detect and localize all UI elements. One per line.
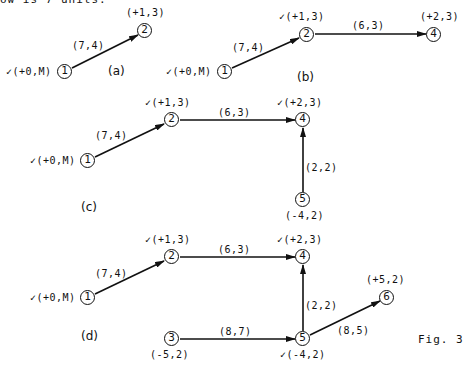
node-b-2-label: ✓(+1,3) bbox=[279, 11, 325, 22]
node-d-4-label: ✓(+2,3) bbox=[277, 234, 323, 245]
node-c-1-label: ✓(+0,M) bbox=[30, 155, 76, 166]
node-c-5-label: (-4,2) bbox=[285, 210, 324, 221]
edge-c-2-4-label: (6,3) bbox=[218, 107, 251, 118]
figure-caption: Fig. 3 bbox=[418, 333, 464, 346]
edge-b-1-2-label: (7,4) bbox=[232, 42, 265, 53]
node-d-5-label: ✓(-4,2) bbox=[280, 349, 326, 360]
node-b-2: 2 bbox=[299, 27, 314, 42]
panel-c-label: (c) bbox=[81, 200, 97, 214]
node-c-4-label: ✓(+2,3) bbox=[277, 97, 323, 108]
node-b-1-label: ✓(+0,M) bbox=[166, 66, 212, 77]
node-a-1-label: ✓(+0,M) bbox=[6, 66, 52, 77]
panel-a-label: (a) bbox=[108, 64, 125, 78]
node-d-3-label: (-5,2) bbox=[150, 349, 189, 360]
edge-d-1-2-label: (7,4) bbox=[95, 268, 128, 279]
node-d-4: 4 bbox=[295, 249, 310, 264]
panel-b-label: (b) bbox=[297, 70, 314, 84]
node-b-4: 4 bbox=[426, 27, 441, 42]
node-c-4: 4 bbox=[295, 112, 310, 127]
edge-c-5-4-label: (2,2) bbox=[305, 162, 338, 173]
node-d-2: 2 bbox=[164, 249, 179, 264]
node-d-5: 5 bbox=[295, 331, 310, 346]
edge-b-2-4-label: (6,3) bbox=[352, 20, 385, 31]
node-a-1: 1 bbox=[57, 64, 72, 79]
node-d-2-label: ✓(+1,3) bbox=[145, 234, 191, 245]
node-d-3: 3 bbox=[164, 331, 179, 346]
edge-d-2-4-label: (6,3) bbox=[218, 244, 251, 255]
node-c-1: 1 bbox=[80, 153, 95, 168]
node-d-6-label: (+5,2) bbox=[366, 274, 405, 285]
edge-d-5-4-label: (2,2) bbox=[305, 300, 338, 311]
diagram-edges bbox=[0, 0, 473, 367]
node-a-2: 2 bbox=[137, 23, 152, 38]
node-a-2-label: (+1,3) bbox=[126, 7, 165, 18]
edge-a-1-2-label: (7,4) bbox=[72, 40, 105, 51]
edge-d-5-6-label: (8,5) bbox=[337, 325, 370, 336]
edge-d-3-5-label: (8,7) bbox=[219, 326, 252, 337]
node-d-6: 6 bbox=[379, 290, 394, 305]
node-d-1-label: ✓(+0,M) bbox=[30, 292, 76, 303]
node-d-1: 1 bbox=[80, 290, 95, 305]
panel-d-label: (d) bbox=[81, 329, 98, 343]
edge-c-1-2-label: (7,4) bbox=[95, 130, 128, 141]
node-b-1: 1 bbox=[217, 64, 232, 79]
node-b-4-label: (+2,3) bbox=[420, 11, 459, 22]
node-c-2-label: ✓(+1,3) bbox=[145, 97, 191, 108]
node-c-2: 2 bbox=[164, 112, 179, 127]
node-c-5: 5 bbox=[295, 192, 310, 207]
